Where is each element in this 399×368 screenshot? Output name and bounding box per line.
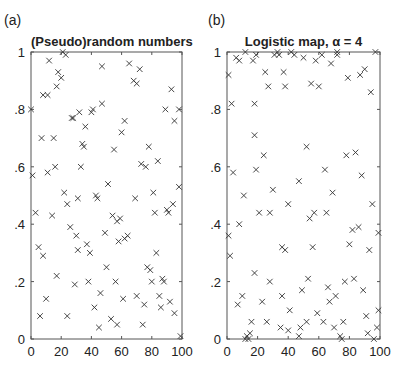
- data-point-x-marker: [102, 230, 108, 236]
- data-point-x-marker: [125, 233, 131, 239]
- data-point-x-marker: [327, 299, 333, 305]
- data-point-x-marker: [253, 167, 259, 173]
- data-point-x-marker: [319, 52, 325, 58]
- data-point-x-marker: [78, 164, 84, 170]
- data-point-x-marker: [98, 290, 104, 296]
- data-point-x-marker: [259, 299, 265, 305]
- x-tick-label: 0: [27, 344, 34, 359]
- data-point-x-marker: [331, 325, 337, 331]
- data-point-x-marker: [152, 210, 158, 216]
- data-point-x-marker: [365, 330, 371, 336]
- data-point-x-marker: [261, 153, 267, 159]
- y-tick-label: .4: [14, 217, 25, 232]
- data-point-x-marker: [54, 273, 60, 279]
- data-point-x-marker: [132, 196, 138, 202]
- scatter-plots: 0204060801000.2.4.6.810204060801000.2.4.…: [0, 0, 399, 368]
- data-point-x-marker: [240, 293, 246, 299]
- data-point-x-marker: [357, 72, 363, 78]
- data-point-x-marker: [40, 253, 46, 259]
- data-point-x-marker: [350, 227, 356, 233]
- data-point-x-marker: [49, 213, 55, 219]
- data-point-x-marker: [344, 153, 350, 159]
- data-point-x-marker: [151, 190, 157, 196]
- data-point-x-marker: [267, 279, 273, 285]
- data-point-x-marker: [113, 279, 119, 285]
- data-point-x-marker: [117, 216, 123, 222]
- x-tick-label: 80: [342, 344, 356, 359]
- data-point-x-marker: [122, 118, 128, 124]
- y-tick-label: .4: [210, 217, 221, 232]
- data-point-x-marker: [307, 216, 313, 222]
- data-point-x-marker: [54, 84, 60, 90]
- data-point-x-marker: [311, 210, 317, 216]
- data-point-x-marker: [325, 285, 331, 291]
- data-point-x-marker: [356, 224, 362, 230]
- y-tick-label: 0: [214, 332, 221, 347]
- data-point-x-marker: [304, 319, 310, 325]
- data-point-x-marker: [287, 308, 293, 314]
- data-point-x-marker: [264, 319, 270, 325]
- data-point-x-marker: [330, 190, 336, 196]
- y-tick-label: 1: [18, 45, 25, 60]
- data-point-x-marker: [172, 118, 178, 124]
- data-point-x-marker: [296, 333, 302, 339]
- data-point-x-marker: [126, 61, 132, 67]
- data-point-x-marker: [304, 144, 310, 150]
- data-point-x-marker: [154, 250, 160, 256]
- data-point-x-marker: [342, 279, 348, 285]
- data-point-x-marker: [278, 325, 284, 331]
- data-point-x-marker: [334, 52, 340, 58]
- data-point-x-marker: [46, 58, 52, 64]
- data-point-x-marker: [134, 293, 140, 299]
- data-point-x-marker: [176, 184, 182, 190]
- y-tick-label: .2: [14, 275, 25, 290]
- data-point-x-marker: [149, 279, 155, 285]
- data-point-x-marker: [61, 190, 67, 196]
- data-point-x-marker: [298, 325, 304, 331]
- data-point-x-marker: [252, 132, 258, 138]
- data-point-x-marker: [140, 322, 146, 328]
- data-point-x-marker: [252, 270, 258, 276]
- data-point-x-marker: [353, 150, 359, 156]
- data-point-x-marker: [227, 253, 233, 259]
- data-point-x-marker: [63, 52, 69, 58]
- data-point-x-marker: [314, 310, 320, 316]
- y-tick-label: 0: [18, 332, 25, 347]
- data-point-x-marker: [235, 302, 241, 308]
- x-tick-label: 60: [312, 344, 326, 359]
- data-point-x-marker: [328, 61, 334, 67]
- data-point-x-marker: [313, 58, 319, 64]
- data-point-x-marker: [67, 224, 73, 230]
- x-tick-label: 60: [114, 344, 128, 359]
- data-point-x-marker: [72, 282, 78, 288]
- data-point-x-marker: [147, 267, 153, 273]
- data-point-x-marker: [281, 69, 287, 75]
- data-point-x-marker: [45, 92, 51, 98]
- data-point-x-marker: [241, 193, 247, 199]
- data-point-x-marker: [299, 287, 305, 293]
- data-point-x-marker: [141, 302, 147, 308]
- data-point-x-marker: [359, 173, 365, 179]
- data-point-x-marker: [172, 310, 178, 316]
- data-point-x-marker: [87, 250, 93, 256]
- data-point-x-marker: [321, 319, 327, 325]
- data-point-x-marker: [279, 293, 285, 299]
- data-point-x-marker: [37, 313, 43, 319]
- data-point-x-marker: [36, 244, 42, 250]
- data-point-x-marker: [64, 313, 70, 319]
- data-point-x-marker: [155, 158, 161, 164]
- data-point-x-marker: [340, 319, 346, 325]
- data-point-x-marker: [52, 164, 58, 170]
- data-point-x-marker: [92, 305, 98, 311]
- data-point-x-marker: [247, 330, 253, 336]
- data-point-x-marker: [51, 135, 57, 141]
- data-point-x-marker: [99, 101, 105, 107]
- data-point-x-marker: [316, 84, 322, 90]
- data-point-x-marker: [96, 325, 102, 331]
- data-point-x-marker: [170, 201, 176, 207]
- data-point-x-marker: [236, 58, 242, 64]
- data-point-x-marker: [230, 170, 236, 176]
- data-point-x-marker: [296, 178, 302, 184]
- x-tick-label: 40: [84, 344, 98, 359]
- data-point-x-marker: [119, 130, 125, 136]
